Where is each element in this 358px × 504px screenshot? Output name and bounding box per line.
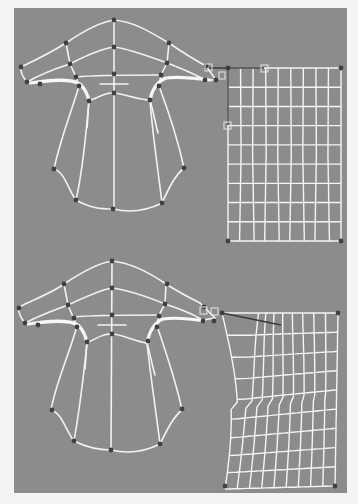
control-point[interactable] xyxy=(112,72,117,77)
control-point[interactable] xyxy=(157,84,162,89)
control-point[interactable] xyxy=(74,198,79,203)
control-point[interactable] xyxy=(226,239,231,244)
control-point[interactable] xyxy=(72,316,77,321)
control-point[interactable] xyxy=(165,61,170,66)
control-point[interactable] xyxy=(68,62,73,67)
control-point[interactable] xyxy=(64,41,69,46)
control-point[interactable] xyxy=(155,325,160,330)
control-point[interactable] xyxy=(203,78,208,83)
control-point[interactable] xyxy=(77,84,82,89)
control-point[interactable] xyxy=(85,340,90,345)
control-point[interactable] xyxy=(74,75,79,80)
control-point[interactable] xyxy=(336,311,341,316)
control-point[interactable] xyxy=(75,325,80,330)
control-point[interactable] xyxy=(50,408,55,413)
control-point[interactable] xyxy=(110,259,115,264)
control-point[interactable] xyxy=(111,207,116,212)
shirt-patch-figure xyxy=(0,0,358,504)
control-point[interactable] xyxy=(214,78,219,83)
control-point[interactable] xyxy=(112,91,117,96)
control-point[interactable] xyxy=(165,282,170,287)
control-point[interactable] xyxy=(38,82,43,87)
control-point[interactable] xyxy=(167,41,172,46)
control-point[interactable] xyxy=(201,319,206,324)
control-point[interactable] xyxy=(112,18,117,23)
control-point[interactable] xyxy=(180,407,185,412)
control-point[interactable] xyxy=(36,323,41,328)
control-point[interactable] xyxy=(52,167,57,172)
control-point[interactable] xyxy=(157,314,162,319)
control-point[interactable] xyxy=(87,99,92,104)
control-point[interactable] xyxy=(159,73,164,78)
control-point[interactable] xyxy=(17,306,22,311)
control-point[interactable] xyxy=(339,239,344,244)
control-point[interactable] xyxy=(66,303,71,308)
control-point[interactable] xyxy=(333,484,338,489)
control-point[interactable] xyxy=(148,98,153,103)
control-point[interactable] xyxy=(339,66,344,71)
control-point[interactable] xyxy=(223,484,228,489)
control-point[interactable] xyxy=(25,80,30,85)
control-point[interactable] xyxy=(23,321,28,326)
control-point[interactable] xyxy=(182,166,187,171)
control-point[interactable] xyxy=(110,332,115,337)
control-point[interactable] xyxy=(109,448,114,453)
control-point[interactable] xyxy=(158,442,163,447)
control-point[interactable] xyxy=(146,339,151,344)
control-point[interactable] xyxy=(163,302,168,307)
control-point[interactable] xyxy=(72,439,77,444)
control-point[interactable] xyxy=(112,45,117,50)
control-point[interactable] xyxy=(62,282,67,287)
control-point[interactable] xyxy=(160,201,165,206)
control-point[interactable] xyxy=(19,65,24,70)
control-point[interactable] xyxy=(110,313,115,318)
control-point[interactable] xyxy=(110,286,115,291)
control-point[interactable] xyxy=(212,319,217,324)
